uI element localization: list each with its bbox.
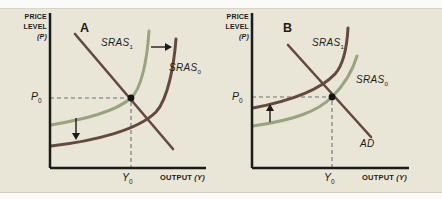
panel-a-sras1-sub: 1	[129, 43, 133, 50]
panel-b-y0-label: Y0	[324, 171, 335, 183]
panel-a-y-axis-line3: (P)	[14, 32, 47, 42]
panel-b-sras1-label: SRAS1	[312, 37, 344, 48]
panel-b-sras0-base: SRAS	[356, 74, 384, 85]
panel-a-y0-label: Y0	[122, 171, 133, 183]
panel-b-y-axis-line2: LEVEL	[216, 22, 249, 32]
panel-a-x-axis-label: OUTPUT (Y)	[160, 173, 205, 182]
panel-a-letter: A	[80, 21, 90, 35]
panel-a-x-axis-var: (Y)	[194, 173, 205, 182]
panel-b-y-axis-line1: PRICE	[216, 12, 249, 22]
textbook-figure: PRICE LEVEL (P) A SRAS1 SRAS0 P0 Y0 OUTP…	[0, 0, 442, 199]
panel-a-sras1-base: SRAS	[101, 37, 129, 48]
panel-b-x-axis-word: OUTPUT	[362, 173, 394, 182]
panel-a-p0-base: P	[31, 90, 38, 102]
panel-a-y0-base: Y	[122, 171, 129, 183]
panel-a-sras0-sub: 0	[197, 68, 201, 75]
panel-b-ad-label: AD	[360, 138, 375, 149]
panel-b-letter: B	[283, 21, 293, 35]
panel-a-x-axis-word: OUTPUT	[160, 173, 192, 182]
panel-a-sras1-label: SRAS1	[101, 37, 133, 48]
panel-b-sras0-sub: 0	[384, 80, 388, 87]
panel-b-x-axis-var: (Y)	[396, 173, 407, 182]
panel-b-sras1-base: SRAS	[312, 37, 340, 48]
panel-b-y0-sub: 0	[331, 178, 335, 185]
panel-a-sras0-label: SRAS0	[169, 62, 201, 73]
panel-a-p0-sub: 0	[38, 97, 42, 104]
panel-a-sras0-base: SRAS	[169, 62, 197, 73]
panel-b-p0-sub: 0	[239, 97, 243, 104]
panel-b-sras0-label: SRAS0	[356, 74, 388, 85]
panel-b-y-axis-label: PRICE LEVEL (P)	[216, 12, 249, 42]
panel-b-y-axis-line3: (P)	[216, 32, 249, 42]
panel-b-ad-line	[288, 45, 371, 137]
panel-a-y-axis-label: PRICE LEVEL (P)	[14, 12, 47, 42]
panel-a-y0-sub: 0	[129, 178, 133, 185]
panel-b-equilibrium-dot	[329, 94, 336, 101]
panel-b-y0-base: Y	[324, 171, 331, 183]
panel-a-y-axis-line2: LEVEL	[14, 22, 47, 32]
panel-b-up-shift-arrow	[266, 104, 274, 122]
panel-b-p0-label: P0	[232, 90, 243, 102]
panel-b-p0-base: P	[232, 90, 239, 102]
panel-b-sras1-sub: 1	[340, 43, 344, 50]
panel-a-y-axis-line1: PRICE	[14, 12, 47, 22]
panel-b-x-axis-label: OUTPUT (Y)	[362, 173, 407, 182]
panel-a-p0-label: P0	[31, 90, 42, 102]
